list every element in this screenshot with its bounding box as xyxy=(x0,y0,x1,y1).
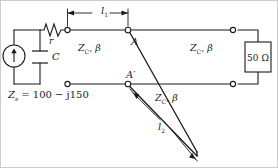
terminal-load-bottom xyxy=(230,81,235,86)
label-node-a-prime: A′ xyxy=(125,69,136,80)
terminal-input-bottom xyxy=(65,81,70,86)
label-load-value: 50 Ω xyxy=(247,53,269,63)
label-stub-impedance: ZC, β xyxy=(154,92,178,105)
label-node-a: A xyxy=(130,36,138,47)
terminal-input-top xyxy=(65,27,70,32)
current-source xyxy=(3,45,25,67)
schematic-canvas: l1 r C ZC, β ZC, β ZC, β A A′ l2 50 Ω Zs xyxy=(0,0,278,168)
label-capacitor-c: C xyxy=(52,51,60,62)
terminal-load-top xyxy=(230,27,235,32)
label-line-left-impedance: ZC, β xyxy=(77,42,101,55)
label-line-right-impedance: ZC, β xyxy=(189,42,213,55)
label-resistor-r: r xyxy=(49,36,54,46)
circuit-diagram: l1 r C ZC, β ZC, β ZC, β A A′ l2 50 Ω Zs xyxy=(0,0,278,168)
label-source-impedance: Zs = 100 − j150 xyxy=(7,89,89,102)
